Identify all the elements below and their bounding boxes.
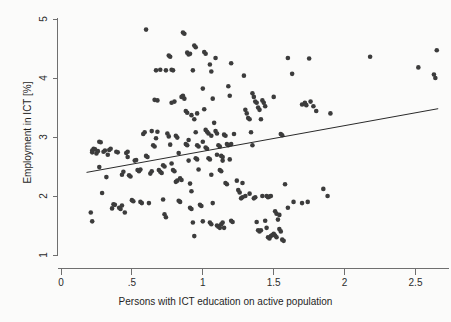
scatter-point [208,62,213,67]
scatter-point [93,147,98,152]
scatter-point [263,218,268,223]
scatter-point [254,100,259,105]
scatter-point [201,139,206,144]
x-tick-label: 2 [342,277,348,288]
scatter-point [254,220,259,225]
scatter-point [168,142,173,147]
scatter-point [185,111,190,116]
scatter-point [108,147,113,152]
scatter-point [203,52,208,57]
scatter-point [229,61,234,66]
scatter-point [209,134,214,139]
scatter-point [185,143,190,148]
scatter-points-group [88,27,439,243]
scatter-point [171,68,176,73]
scatter-point [186,138,191,143]
scatter-point [226,84,231,89]
scatter-point [304,103,309,108]
scatter-point [192,234,197,239]
scatter-point [210,96,215,101]
scatter-point [314,109,319,114]
scatter-point [215,131,220,136]
scatter-point [215,152,220,157]
y-axis-title: Employment in ICT [%] [22,33,33,233]
scatter-point [188,52,193,57]
scatter-point [149,169,154,174]
scatter-point [162,164,167,169]
scatter-point [286,206,291,211]
x-tick-label: .5 [128,277,136,288]
scatter-point [144,27,149,32]
scatter-point [123,210,128,215]
scatter-point [259,117,264,122]
y-tick-label: 2 [38,189,49,203]
scatter-point [209,172,214,177]
scatter-point [169,161,174,166]
scatter-point [235,178,240,183]
scatter-point [176,151,181,156]
scatter-point [259,228,264,233]
scatter-point [247,191,252,196]
scatter-point [212,121,217,126]
scatter-point [179,178,184,183]
scatter-point [223,134,228,139]
scatter-point [253,195,258,200]
y-tick-label: 4 [38,71,49,85]
scatter-point [138,167,143,172]
scatter-point [147,201,152,206]
scatter-point [416,65,421,70]
scatter-point [175,135,180,140]
scatter-point [308,99,313,104]
scatter-point [260,194,265,199]
scatter-point [290,72,295,77]
scatter-point [252,95,257,100]
scatter-point [227,157,232,162]
scatter-point [201,219,206,224]
scatter-point [433,76,438,81]
scatter-point [182,31,187,36]
scatter-point [300,201,305,206]
tick-marks-group [53,19,416,275]
scatter-point [131,199,136,204]
scatter-point [227,93,232,98]
scatter-point [237,190,242,195]
scatter-point [243,194,248,199]
scatter-point [305,200,310,205]
scatter-point [283,182,288,187]
scatter-point [274,235,279,240]
scatter-point [179,95,184,100]
plot-canvas [0,0,451,322]
y-tick-label: 1 [38,248,49,262]
scatter-point [178,200,183,205]
scatter-point [195,111,200,116]
scatter-point [90,219,95,224]
scatter-point [145,155,150,160]
scatter-point [189,189,194,194]
scatter-point [113,203,118,208]
scatter-chart-figure: 0.511.522.5 12345 Persons with ICT educa… [0,0,451,322]
scatter-point [202,107,207,112]
scatter-point [307,56,312,61]
scatter-point [242,73,247,78]
y-tick-label: 3 [38,130,49,144]
scatter-point [97,165,102,170]
scatter-point [278,229,283,234]
scatter-point [128,174,133,179]
scatter-point [199,204,204,209]
scatter-point [104,175,109,180]
scatter-point [195,157,200,162]
scatter-point [328,111,333,116]
scatter-point [149,129,154,134]
scatter-point [189,113,194,118]
scatter-point [115,150,120,155]
x-tick-label: 1 [200,277,206,288]
scatter-point [250,143,255,148]
scatter-point [220,158,225,163]
scatter-point [159,171,164,176]
scatter-point [368,54,373,59]
scatter-point [196,144,201,149]
scatter-point [249,130,254,135]
scatter-point [125,149,130,154]
scatter-point [191,220,196,225]
scatter-point [191,68,196,73]
